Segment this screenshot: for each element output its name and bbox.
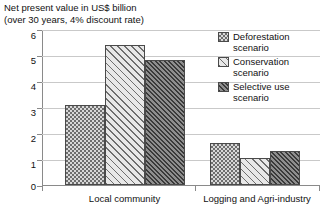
- bar-local-community-selective-use: [145, 60, 185, 185]
- bar-logging-agri-deforestation: [210, 143, 240, 185]
- category-label-logging-agri-industry: Logging and Agri-industry: [188, 193, 326, 204]
- bar-local-community-conservation: [105, 45, 145, 185]
- x-tick-middle: [195, 186, 196, 191]
- legend-item-selective-use: Selective use scenario: [218, 81, 326, 103]
- legend-item-deforestation: Deforestation scenario: [218, 31, 326, 53]
- legend-swatch-deforestation-icon: [218, 32, 229, 42]
- chart-title: Net present value in US$ billion (over 3…: [4, 2, 244, 25]
- legend-item-conservation: Conservation scenario: [218, 56, 326, 78]
- y-tick-label-2: 2: [16, 134, 36, 144]
- legend-label-selective-use: Selective use scenario: [233, 81, 290, 103]
- x-tick-left: [42, 186, 43, 191]
- y-tick-label-6: 6: [16, 31, 36, 41]
- y-tick-label-0: 0: [16, 182, 36, 192]
- y-tick-label-4: 4: [16, 82, 36, 92]
- bar-local-community-deforestation: [65, 105, 105, 185]
- x-tick-right: [319, 186, 320, 191]
- legend-label-conservation: Conservation scenario: [233, 56, 289, 78]
- legend-swatch-conservation-icon: [218, 57, 229, 67]
- y-tick-label-5: 5: [16, 56, 36, 66]
- y-tick-label-3: 3: [16, 108, 36, 118]
- chart-legend: Deforestation scenario Conservation scen…: [218, 31, 326, 106]
- legend-label-deforestation: Deforestation scenario: [233, 31, 290, 53]
- legend-swatch-selective-use-icon: [218, 82, 229, 92]
- category-label-local-community: Local community: [62, 193, 187, 204]
- x-axis-baseline: [42, 185, 320, 186]
- bar-logging-agri-selective-use: [270, 151, 300, 185]
- bar-logging-agri-conservation: [240, 158, 270, 185]
- y-tick-label-1: 1: [16, 160, 36, 170]
